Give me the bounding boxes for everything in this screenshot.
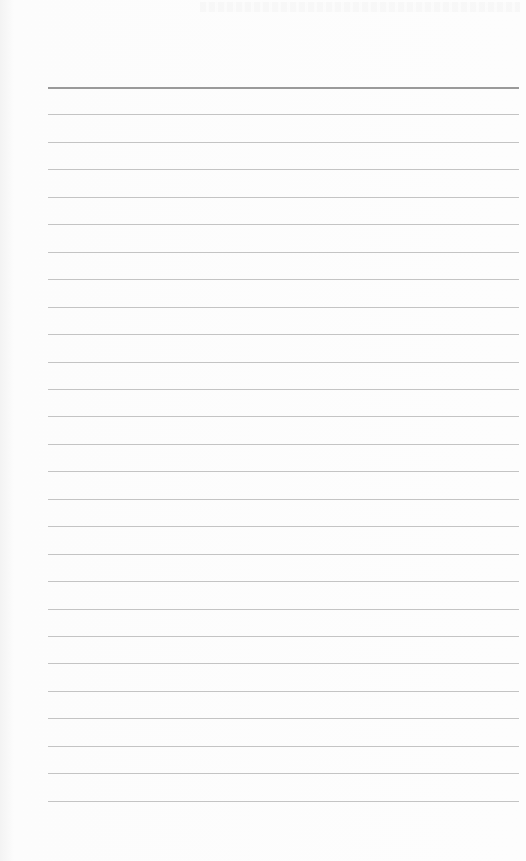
ruled-line [48, 526, 519, 527]
ruled-line [48, 307, 519, 308]
ruled-line [48, 444, 519, 445]
ruled-line [48, 718, 519, 719]
ruled-line [48, 746, 519, 747]
ruled-lines [48, 0, 519, 861]
ruled-line [48, 416, 519, 417]
ruled-line [48, 499, 519, 500]
ruled-line [48, 663, 519, 664]
ruled-line [48, 609, 519, 610]
ruled-line [48, 362, 519, 363]
ruled-line [48, 801, 519, 802]
header-rule [48, 87, 519, 89]
ruled-line [48, 142, 519, 143]
ruled-line [48, 554, 519, 555]
ruled-line [48, 224, 519, 225]
ruled-line [48, 581, 519, 582]
ruled-line [48, 114, 519, 115]
ruled-line [48, 252, 519, 253]
ruled-line [48, 279, 519, 280]
ruled-line [48, 636, 519, 637]
ruled-line [48, 471, 519, 472]
ruled-line [48, 334, 519, 335]
ruled-line [48, 691, 519, 692]
lined-paper-page [0, 0, 526, 861]
ruled-line [48, 389, 519, 390]
ruled-line [48, 169, 519, 170]
ruled-line [48, 773, 519, 774]
ruled-line [48, 197, 519, 198]
